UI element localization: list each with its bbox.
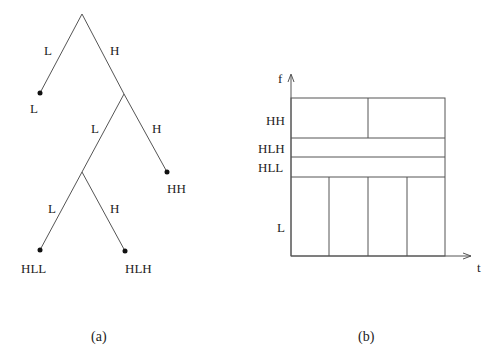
leaf-label-L: L <box>30 101 38 116</box>
edge-label-root-H: H <box>110 43 119 58</box>
f-axis-label: f <box>278 71 283 86</box>
band-label-L: L <box>277 220 285 235</box>
edge-label-root-L: L <box>44 43 52 58</box>
leaf-dot-L <box>38 91 43 96</box>
edge-label-H-L: L <box>91 121 99 136</box>
tiling-diagram: f t HH HLH HLL L <box>258 71 481 275</box>
edge-H-L <box>82 94 124 172</box>
edge-HL-L <box>40 172 82 250</box>
leaf-dot-HH <box>165 170 170 175</box>
band-label-HLH: HLH <box>258 141 285 156</box>
leaf-label-HLH: HLH <box>125 261 152 276</box>
caption-a: (a) <box>91 329 107 345</box>
tree-diagram: L H L L H HH L H HLL HLH <box>21 14 186 276</box>
caption-b: (b) <box>358 329 375 345</box>
edge-label-HL-L: L <box>48 201 56 216</box>
band-label-HH: HH <box>266 113 285 128</box>
edge-label-H-H: H <box>152 121 161 136</box>
figure-canvas: L H L L H HH L H HLL HLH f t HH HLH HLL <box>0 0 498 359</box>
leaf-dot-HLH <box>123 249 128 254</box>
leaf-dot-HLL <box>38 248 43 253</box>
band-label-HLL: HLL <box>258 160 283 175</box>
leaf-label-HH: HH <box>167 181 186 196</box>
edge-label-HL-H: H <box>110 201 119 216</box>
t-axis-label: t <box>477 260 481 275</box>
leaf-label-HLL: HLL <box>21 261 46 276</box>
